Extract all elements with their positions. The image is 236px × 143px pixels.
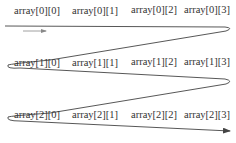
cell-2-3: array[2][3] [184, 109, 230, 121]
cell-2-0: array[2][0] [14, 109, 60, 121]
cell-2-1: array[2][1] [72, 109, 118, 121]
traversal-path-row-2 [20, 121, 230, 131]
cell-0-2: array[0][2] [131, 4, 177, 16]
cell-1-2: array[1][2] [131, 56, 177, 68]
cell-0-1: array[0][1] [72, 5, 118, 17]
cell-1-3: array[1][3] [184, 56, 230, 68]
cell-1-1: array[1][1] [72, 57, 118, 69]
cell-2-2: array[2][2] [131, 109, 177, 121]
cell-0-0: array[0][0] [14, 5, 60, 17]
array-traversal-diagram: array[0][0] array[0][1] array[0][2] arra… [0, 0, 236, 143]
cell-1-0: array[1][0] [14, 57, 60, 69]
cell-0-3: array[0][3] [184, 4, 230, 16]
traversal-path-layer [0, 0, 236, 143]
